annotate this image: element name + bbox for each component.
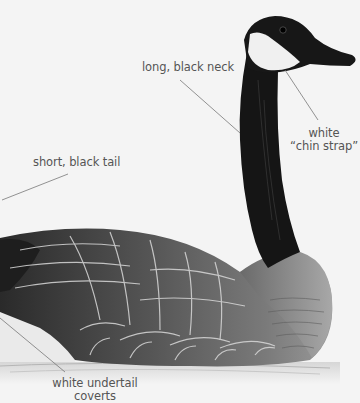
label-long-black-neck: long, black neck	[142, 61, 234, 74]
label-white-chin-strap: white “chin strap”	[289, 127, 359, 153]
leader-neck	[180, 80, 240, 133]
leader-tail	[2, 174, 68, 200]
goose-neck	[240, 52, 300, 268]
label-coverts-line2: coverts	[40, 390, 150, 403]
label-white-undertail-coverts: white undertail coverts	[40, 377, 150, 403]
goose-illustration: long, black neck white “chin strap” shor…	[0, 0, 360, 403]
goose-eye	[280, 27, 286, 33]
label-short-black-tail: short, black tail	[33, 156, 120, 169]
label-chin-line2: “chin strap”	[289, 140, 359, 153]
leader-chin	[285, 70, 318, 120]
